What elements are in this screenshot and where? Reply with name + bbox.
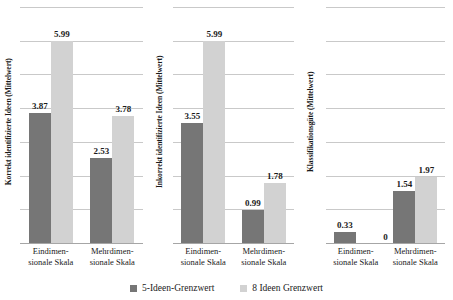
y-axis-title-panel-1: Korrekt identifizierte Ideen (Mittelwert… [0, 0, 18, 244]
category-line-1: Mehrdimen- [234, 246, 295, 257]
bar-series-5-ideen[interactable] [29, 113, 51, 243]
bar-value-label: 0.33 [337, 221, 353, 230]
x-axis-category-label: Eindimen- sionale Skala [173, 246, 234, 267]
bar-slot: 0.99 [242, 8, 264, 243]
x-axis-category-label: Mehrdimen- sionale Skala [386, 246, 446, 267]
bar-value-label: 3.87 [32, 102, 48, 111]
legend-label: 8 Ideen Grenzwert [252, 283, 323, 293]
bar-series-5-ideen[interactable] [181, 123, 203, 243]
category-line-1: Mehrdimen- [386, 246, 446, 257]
bar-group: 0.99 1.78 [242, 8, 286, 243]
bar-slot: 5.99 [51, 8, 73, 243]
category-line-2: sionale Skala [386, 257, 446, 268]
x-axis-category-label: Eindimen- sionale Skala [326, 246, 386, 267]
category-line-2: sionale Skala [173, 257, 234, 268]
panel-row: Korrekt identifizierte Ideen (Mittelwert… [0, 0, 453, 272]
bar-groups-panel-2: 3.55 5.99 0.99 [173, 8, 294, 243]
category-line-2: sionale Skala [234, 257, 295, 268]
chart-panel-klassifikationsguete: Klassifikationsgüte (Mittelwert) 0.33 0 [302, 0, 453, 272]
plot-area-panel-3: 0.33 0 1.54 1 [326, 8, 445, 244]
category-line-1: Eindimen- [326, 246, 386, 257]
bar-group: 2.53 3.78 [90, 8, 134, 243]
bar-group: 1.54 1.97 [393, 8, 437, 243]
x-axis-line-panel-2 [173, 243, 294, 244]
bar-value-label: 1.97 [418, 166, 434, 175]
bar-slot: 1.78 [264, 8, 286, 243]
category-line-1: Eindimen- [173, 246, 234, 257]
x-axis-category-label: Mehrdimen- sionale Skala [82, 246, 144, 267]
category-line-2: sionale Skala [326, 257, 386, 268]
bar-series-5-ideen[interactable] [334, 232, 356, 243]
plot-area-panel-2: 3.55 5.99 0.99 [173, 8, 294, 244]
bar-groups-panel-1: 3.87 5.99 2.53 [20, 8, 143, 243]
legend-label: 5-Ideen-Grenzwert [142, 283, 214, 293]
bar-group: 0.33 0 [334, 8, 378, 243]
bar-series-8-ideen[interactable] [112, 116, 134, 243]
bar-value-label: 1.54 [396, 180, 412, 189]
chart-panel-korrekt: Korrekt identifizierte Ideen (Mittelwert… [0, 0, 151, 272]
bar-group: 3.87 5.99 [29, 8, 73, 243]
y-axis-title-text-2: Inkorrekt identifizierte Ideen (Mittelwe… [156, 56, 164, 188]
bar-slot: 2.53 [90, 8, 112, 243]
chart-legend: 5-Ideen-Grenzwert 8 Ideen Grenzwert [0, 276, 453, 300]
category-line-2: sionale Skala [82, 257, 144, 268]
bar-series-8-ideen[interactable] [203, 41, 225, 243]
bar-slot: 3.87 [29, 8, 51, 243]
bar-slot: 5.99 [203, 8, 225, 243]
y-axis-title-text-3: Klassifikationsgüte (Mittelwert) [307, 72, 315, 172]
bar-group: 3.55 5.99 [181, 8, 225, 243]
bar-value-label: 0 [383, 233, 388, 242]
x-axis-category-label: Eindimen- sionale Skala [20, 246, 82, 267]
bar-series-8-ideen[interactable] [51, 41, 73, 243]
legend-swatch-icon [240, 285, 247, 292]
bar-value-label: 3.55 [184, 112, 200, 121]
bar-series-5-ideen[interactable] [90, 158, 112, 243]
y-axis-title-panel-2: Inkorrekt identifizierte Ideen (Mittelwe… [151, 0, 169, 244]
bar-slot: 3.78 [112, 8, 134, 243]
bar-value-label: 0.99 [245, 199, 261, 208]
bar-slot: 0.33 [334, 8, 356, 243]
x-axis-category-label: Mehrdimen- sionale Skala [234, 246, 295, 267]
x-axis-line-panel-3 [326, 243, 445, 244]
plot-area-panel-1: 3.87 5.99 2.53 [20, 8, 143, 244]
legend-item-8-ideen[interactable]: 8 Ideen Grenzwert [240, 283, 323, 293]
bar-series-5-ideen[interactable] [393, 191, 415, 243]
grouped-bar-chart-figure: Korrekt identifizierte Ideen (Mittelwert… [0, 0, 453, 300]
y-axis-title-text-1: Korrekt identifizierte Ideen (Mittelwert… [5, 58, 13, 185]
y-axis-title-panel-3: Klassifikationsgüte (Mittelwert) [302, 0, 320, 244]
bar-value-label: 3.78 [115, 105, 131, 114]
bar-value-label: 5.99 [54, 30, 70, 39]
category-line-1: Eindimen- [20, 246, 82, 257]
category-line-1: Mehrdimen- [82, 246, 144, 257]
bar-slot: 3.55 [181, 8, 203, 243]
bar-series-5-ideen[interactable] [242, 210, 264, 243]
bar-value-label: 1.78 [267, 172, 283, 181]
bar-groups-panel-3: 0.33 0 1.54 1 [326, 8, 445, 243]
bar-slot: 1.97 [415, 8, 437, 243]
x-axis-line-panel-1 [20, 243, 143, 244]
x-axis-labels-panel-1: Eindimen- sionale Skala Mehrdimen- siona… [20, 246, 143, 272]
category-line-2: sionale Skala [20, 257, 82, 268]
x-axis-labels-panel-3: Eindimen- sionale Skala Mehrdimen- siona… [326, 246, 445, 272]
bar-value-label: 5.99 [206, 30, 222, 39]
legend-item-5-ideen[interactable]: 5-Ideen-Grenzwert [130, 283, 214, 293]
legend-swatch-icon [130, 285, 137, 292]
x-axis-labels-panel-2: Eindimen- sionale Skala Mehrdimen- siona… [173, 246, 294, 272]
bar-series-8-ideen[interactable] [415, 177, 437, 243]
bar-slot: 0 [356, 8, 378, 243]
chart-panel-inkorrekt: Inkorrekt identifizierte Ideen (Mittelwe… [151, 0, 302, 272]
bar-value-label: 2.53 [93, 147, 109, 156]
bar-slot: 1.54 [393, 8, 415, 243]
bar-series-8-ideen[interactable] [264, 183, 286, 243]
